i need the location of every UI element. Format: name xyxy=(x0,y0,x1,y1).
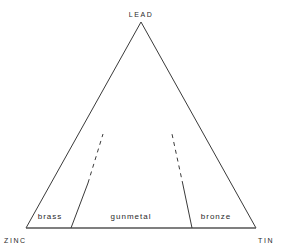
brass-gunmetal-divider-dashed xyxy=(88,134,103,183)
gunmetal-bronze-divider-solid xyxy=(183,185,192,228)
brass-gunmetal-divider-solid xyxy=(71,183,88,228)
region-label-gunmetal: gunmetal xyxy=(111,212,152,221)
ternary-diagram: LEAD ZINC TIN brass gunmetal bronze xyxy=(0,0,282,252)
region-label-brass: brass xyxy=(38,212,63,221)
region-label-bronze: bronze xyxy=(201,212,231,221)
left-edge xyxy=(26,22,141,228)
vertex-label-lead: LEAD xyxy=(129,11,154,18)
gunmetal-bronze-divider-dashed xyxy=(172,134,183,185)
vertex-label-zinc: ZINC xyxy=(4,237,27,244)
vertex-label-tin: TIN xyxy=(258,237,274,244)
right-edge xyxy=(141,22,256,228)
